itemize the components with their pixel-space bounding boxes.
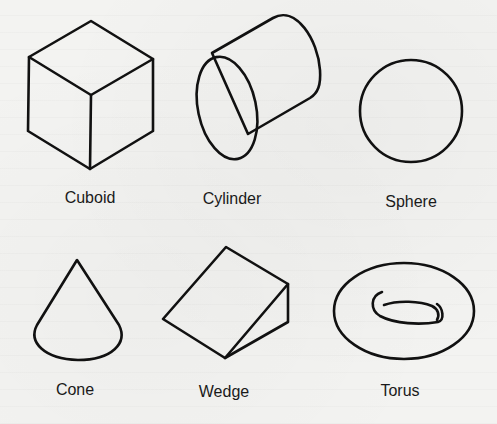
- cylinder-label: Cylinder: [203, 191, 262, 207]
- torus-label: Torus: [380, 383, 419, 399]
- sphere-icon: [360, 60, 462, 162]
- wedge-icon: [163, 247, 288, 358]
- cone-label: Cone: [56, 382, 94, 398]
- wedge-label: Wedge: [199, 384, 249, 400]
- sphere-label: Sphere: [385, 194, 437, 210]
- cone-icon: [35, 260, 122, 360]
- shapes-drawing: [0, 0, 497, 424]
- cuboid-label: Cuboid: [65, 190, 116, 206]
- cylinder-icon: [188, 15, 320, 165]
- torus-icon: [334, 263, 474, 359]
- shapes-figure: Cuboid Cylinder Sphere Cone Wedge Torus: [0, 0, 497, 424]
- cuboid-icon: [28, 21, 153, 169]
